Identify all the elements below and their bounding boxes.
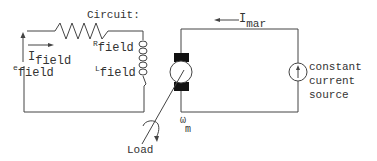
speed-label: ωm [180,115,191,135]
source-label-line2: current [309,75,355,87]
armature-current-arrow-icon [214,18,239,22]
inductor-icon [139,41,147,75]
armature-circuit [181,29,298,112]
field-current-arrow-icon [28,43,54,47]
dc-motor-circuit-diagram: Circuit: Ifield efield Rfield Lfield Ima… [0,0,377,161]
voltage-arrow-icon [21,32,26,62]
armature-wire-bottom [181,81,298,112]
armature-wire-top [181,29,298,63]
armature-current-label: Imar [239,12,266,30]
current-source-icon [289,63,307,81]
source-label-line3: source [309,89,349,101]
resistor-label: Rfield [93,39,134,55]
field-top-wire [27,23,143,40]
load-label: Load [127,144,153,156]
field-voltage-label: efield [13,63,54,80]
circuit-title: Circuit: [87,9,140,21]
inductor-label: Lfield [95,64,136,80]
source-label-line1: constant [309,61,362,73]
